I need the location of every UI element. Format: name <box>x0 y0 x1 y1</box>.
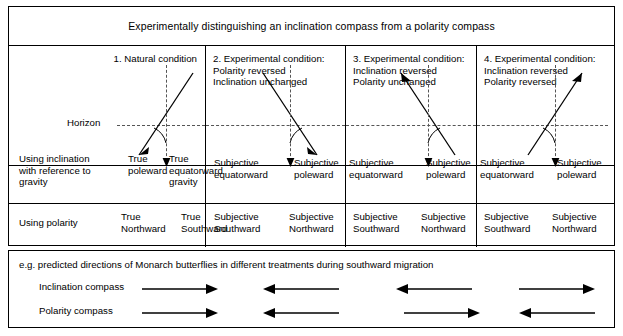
polarity-compass-label: Polarity compass <box>39 305 113 316</box>
polarity-left-label-3: Subjective Southward <box>353 211 421 234</box>
gravity-line-3 <box>428 65 429 161</box>
inclination-prediction-arrow-3 <box>396 283 472 295</box>
inclination-prediction-arrow-4 <box>519 283 595 295</box>
compass-diagram-2 <box>249 67 341 167</box>
inclination-right-label-2: Subjective poleward <box>294 157 356 180</box>
inclination-left-label-3: Subjective equatorward <box>349 157 421 180</box>
polarity-left-label-1: True Northward <box>121 211 179 234</box>
inclination-prediction-arrow-2 <box>263 283 339 295</box>
column-header-1: 1. Natural condition <box>23 53 197 65</box>
horizon-label: Horizon <box>67 117 100 128</box>
inclination-right-label-4: Subjective poleward <box>557 157 619 180</box>
polarity-prediction-arrow-3 <box>404 307 480 319</box>
prediction-caption: e.g. predicted directions of Monarch but… <box>19 259 433 270</box>
polarity-right-label-3: Subjective Northward <box>421 211 485 234</box>
polarity-right-label-2: Subjective Northward <box>289 211 353 234</box>
prediction-panel: e.g. predicted directions of Monarch but… <box>8 250 615 328</box>
inclination-left-label-2: Subjective equatorward <box>214 157 286 180</box>
gravity-line-4 <box>555 65 556 161</box>
inclination-left-label-4: Subjective equatorward <box>480 157 552 180</box>
row-label-polarity: Using polarity <box>19 217 115 229</box>
divider-polarity-row <box>9 203 614 204</box>
divider-title <box>9 45 614 46</box>
polarity-prediction-arrow-2 <box>263 307 339 319</box>
gravity-line-1 <box>166 65 167 161</box>
inclination-right-label-3: Subjective poleward <box>426 157 488 180</box>
gravity-line-2 <box>290 65 291 161</box>
compass-diagram-3 <box>381 67 473 167</box>
polarity-left-label-2: Subjective Southward <box>214 211 282 234</box>
polarity-prediction-arrow-1 <box>142 307 218 319</box>
polarity-prediction-arrow-4 <box>519 307 595 319</box>
polarity-left-label-4: Subjective Southward <box>484 211 552 234</box>
inclination-left-label-1: True poleward <box>128 153 168 176</box>
figure-root: Experimentally distinguishing an inclina… <box>0 0 623 336</box>
polarity-right-label-4: Subjective Northward <box>552 211 616 234</box>
inclination-prediction-arrow-1 <box>142 283 218 295</box>
figure-title: Experimentally distinguishing an inclina… <box>9 7 614 45</box>
row-label-inclination: Using inclination with reference to grav… <box>19 153 129 188</box>
inclination-compass-label: Inclination compass <box>39 281 124 292</box>
compass-diagram-1 <box>117 67 209 167</box>
comparison-table: Experimentally distinguishing an inclina… <box>8 6 615 246</box>
compass-diagram-4 <box>512 67 604 167</box>
